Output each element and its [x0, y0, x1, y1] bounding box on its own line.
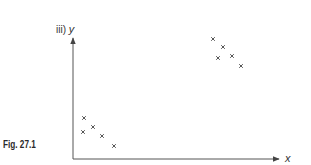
y-axis-label: y [69, 23, 75, 35]
cross-marker-icon [211, 37, 215, 41]
scatter-diagram [0, 0, 311, 165]
cross-marker-icon [230, 54, 234, 58]
cross-marker-icon [100, 134, 104, 138]
x-axis-label: x [285, 152, 291, 164]
cross-marker-icon [82, 116, 86, 120]
part-number: iii) [56, 24, 66, 35]
part-label: iii) y [56, 23, 74, 35]
cross-marker-icon [112, 144, 116, 148]
cross-marker-icon [221, 45, 225, 49]
figure-caption: Fig. 27.1 [3, 139, 36, 150]
cross-marker-icon [81, 130, 85, 134]
cross-marker-icon [91, 125, 95, 129]
data-points [81, 37, 243, 148]
cross-marker-icon [239, 64, 243, 68]
cross-marker-icon [216, 56, 220, 60]
